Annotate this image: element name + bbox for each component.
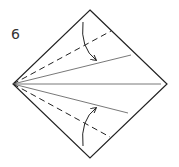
origami-diagram (0, 0, 179, 167)
step-number: 6 (11, 26, 20, 42)
